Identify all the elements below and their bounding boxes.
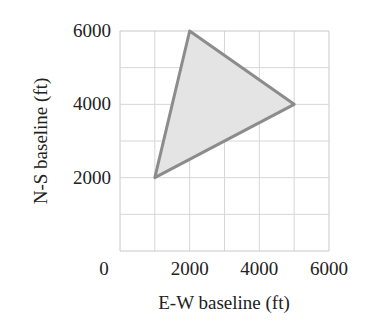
y-tick-label: 6000	[73, 20, 111, 41]
y-tick-label: 2000	[73, 167, 111, 188]
y-tick-label: 4000	[73, 93, 111, 114]
x-tick-label: 4000	[240, 258, 278, 279]
x-tick-label: 2000	[171, 258, 209, 279]
x-tick-label: 6000	[310, 258, 348, 279]
y-axis-label: N-S baseline (ft)	[30, 78, 52, 205]
triangle-plot: 200040006000 0200040006000 E-W baseline …	[0, 0, 371, 328]
x-tick-label: 0	[99, 258, 109, 279]
y-tick-labels: 200040006000	[73, 20, 111, 188]
x-tick-labels: 0200040006000	[99, 258, 348, 279]
x-axis-label: E-W baseline (ft)	[158, 292, 290, 314]
